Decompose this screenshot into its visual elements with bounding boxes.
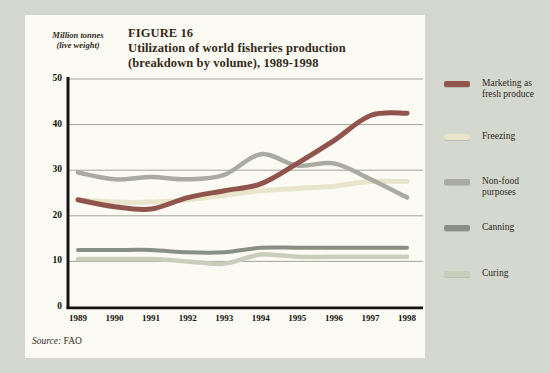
series-line-canning bbox=[78, 247, 407, 252]
figure-number: FIGURE 16 bbox=[128, 26, 428, 41]
figure-title-line1: Utilization of world fisheries productio… bbox=[128, 41, 428, 56]
figure-title: FIGURE 16 Utilization of world fisheries… bbox=[128, 26, 428, 71]
legend-text: Non-food bbox=[482, 176, 519, 186]
legend-item-marketing-fresh: Marketing as fresh produce bbox=[444, 78, 548, 100]
figure-title-line2: (breakdown by volume), 1989-1998 bbox=[128, 56, 428, 71]
legend-text: purposes bbox=[482, 187, 516, 197]
legend-text: fresh produce bbox=[482, 89, 534, 99]
legend-item-non-food: Non-food purposes bbox=[444, 176, 548, 198]
series-line-curing bbox=[78, 254, 407, 264]
x-tick-label: 1994 bbox=[243, 313, 279, 323]
y-axis-unit-label: Million tonnes (live weight) bbox=[26, 30, 130, 50]
legend-swatch-curing bbox=[444, 271, 470, 277]
legend-text: Canning bbox=[482, 222, 514, 232]
legend-swatch-marketing-fresh bbox=[444, 81, 470, 87]
y-tick-label: 50 bbox=[38, 73, 62, 83]
x-tick-label: 1997 bbox=[352, 313, 388, 323]
legend-label-curing: Curing bbox=[482, 268, 508, 279]
legend-swatch-canning bbox=[444, 225, 470, 231]
legend-label-non-food: Non-food purposes bbox=[482, 176, 519, 198]
x-tick-label: 1991 bbox=[133, 313, 169, 323]
y-tick-label: 30 bbox=[38, 164, 62, 174]
source-prefix: Source: bbox=[32, 336, 61, 346]
x-tick-label: 1998 bbox=[389, 313, 425, 323]
series-line-freezing bbox=[78, 181, 407, 202]
legend-label-marketing-fresh: Marketing as fresh produce bbox=[482, 78, 534, 100]
legend-item-freezing: Freezing bbox=[444, 131, 548, 142]
legend-item-curing: Curing bbox=[444, 268, 548, 279]
legend-label-canning: Canning bbox=[482, 222, 514, 233]
unit-label-line1: Million tonnes bbox=[52, 30, 103, 40]
source-note: Source: FAO bbox=[32, 336, 82, 346]
unit-label-line2: (live weight) bbox=[56, 40, 99, 50]
legend-label-freezing: Freezing bbox=[482, 131, 515, 142]
x-tick-label: 1989 bbox=[60, 313, 96, 323]
y-tick-label: 10 bbox=[38, 255, 62, 265]
legend-item-canning: Canning bbox=[444, 222, 548, 233]
legend-text: Freezing bbox=[482, 131, 515, 141]
y-tick-label: 20 bbox=[38, 210, 62, 220]
x-tick-label: 1993 bbox=[206, 313, 242, 323]
x-tick-label: 1995 bbox=[279, 313, 315, 323]
y-tick-label: 0 bbox=[38, 301, 62, 311]
legend-text: Marketing as bbox=[482, 78, 532, 88]
source-value: FAO bbox=[64, 336, 82, 346]
x-tick-label: 1990 bbox=[97, 313, 133, 323]
x-tick-label: 1992 bbox=[170, 313, 206, 323]
legend-swatch-non-food bbox=[444, 179, 470, 185]
legend-text: Curing bbox=[482, 268, 508, 278]
x-tick-label: 1996 bbox=[316, 313, 352, 323]
legend-swatch-freezing bbox=[444, 134, 470, 140]
y-tick-label: 40 bbox=[38, 119, 62, 129]
page: { "figure": { "unit_label_line1": "Milli… bbox=[0, 0, 550, 373]
line-chart bbox=[38, 72, 428, 332]
